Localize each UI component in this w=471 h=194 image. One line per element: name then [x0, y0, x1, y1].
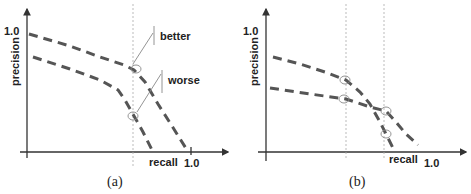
panel-caption: (a)	[107, 174, 123, 190]
x-tick-label: 1.0	[424, 157, 439, 169]
x-axis-label: recall	[389, 153, 418, 165]
worse-callout-line	[137, 74, 161, 112]
upper-curve	[29, 34, 187, 150]
y-tick-label: 1.0	[4, 25, 19, 37]
better-label: better	[160, 30, 191, 42]
y-axis-label: precision	[9, 37, 21, 86]
y-axis-label: precision	[248, 37, 260, 86]
panel-a: 1.0 precision better worse recall 1.0 (a…	[4, 4, 228, 190]
figure-canvas: 1.0 precision better worse recall 1.0 (a…	[0, 0, 471, 194]
panel-b: 1.0 precision recall 1.0 (b)	[243, 4, 466, 190]
steep-curve	[273, 57, 394, 150]
worse-label: worse	[167, 74, 200, 86]
x-tick-label: 1.0	[184, 157, 199, 169]
flat-curve	[270, 88, 418, 145]
panel-caption: (b)	[349, 174, 366, 190]
point-marker-3	[381, 107, 391, 115]
x-axis-label: recall	[149, 156, 178, 168]
better-callout-line	[133, 33, 153, 64]
y-tick-label: 1.0	[243, 25, 258, 37]
